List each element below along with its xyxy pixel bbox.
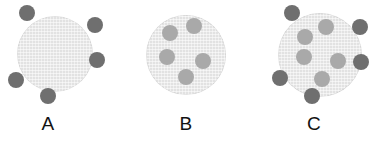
internal-particle-c-9	[330, 53, 346, 69]
bound-particle-c-4	[272, 70, 288, 86]
panel-label-c: C	[274, 113, 354, 135]
bound-particle-c-3	[353, 54, 369, 70]
cell-panel-c: C	[0, 0, 383, 146]
bound-particle-c-1	[284, 5, 300, 21]
bound-particle-c-2	[352, 19, 368, 35]
internal-particle-c-10	[314, 71, 330, 87]
internal-particle-c-8	[296, 49, 312, 65]
cell-particle-figure: ABC	[0, 0, 383, 146]
internal-particle-c-7	[297, 29, 313, 45]
bound-particle-c-5	[304, 88, 320, 104]
cell-diagram-c	[0, 0, 383, 115]
internal-particle-c-6	[318, 19, 334, 35]
